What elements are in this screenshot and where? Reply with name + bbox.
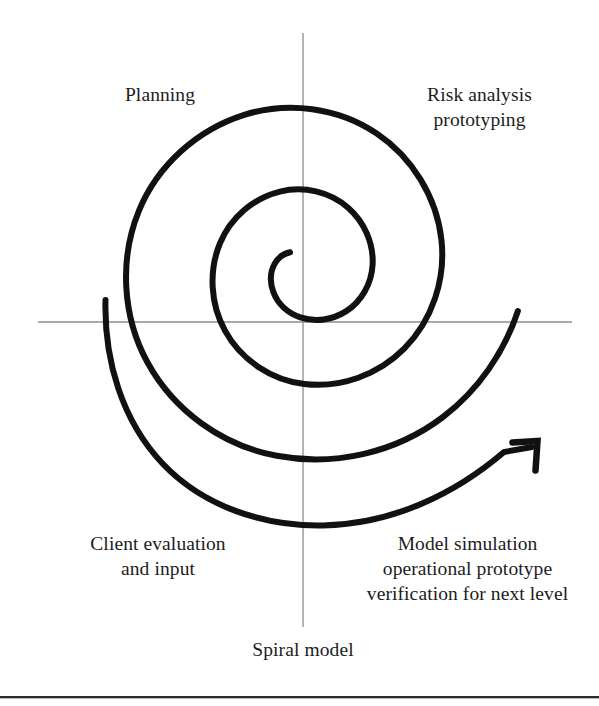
spiral-model-figure: Planning Risk analysis prototyping Clien… xyxy=(0,0,599,706)
label-model-line-2: operational prototype xyxy=(340,557,595,582)
label-model-simulation: Model simulation operational prototype v… xyxy=(340,532,595,607)
label-risk-line-1: Risk analysis xyxy=(372,83,587,108)
label-planning: Planning xyxy=(60,83,260,108)
label-risk-analysis: Risk analysis prototyping xyxy=(372,83,587,133)
spiral-tail-curve xyxy=(105,300,532,526)
label-client-line-1: Client evaluation xyxy=(18,532,298,557)
figure-caption: Spiral model xyxy=(203,638,403,663)
spiral-curve xyxy=(126,108,518,460)
label-client-evaluation: Client evaluation and input xyxy=(18,532,298,582)
page-divider-rule xyxy=(0,696,599,699)
label-risk-line-2: prototyping xyxy=(372,108,587,133)
label-planning-line-1: Planning xyxy=(60,83,260,108)
label-client-line-2: and input xyxy=(18,557,298,582)
label-model-line-1: Model simulation xyxy=(340,532,595,557)
label-model-line-3: verification for next level xyxy=(340,582,595,607)
